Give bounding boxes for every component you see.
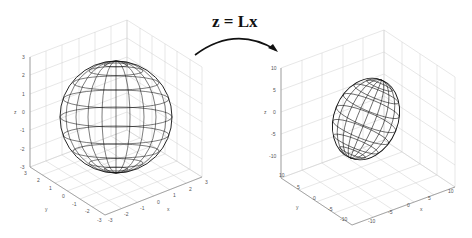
svg-text:2: 2 (37, 177, 40, 183)
arrow-head-icon (268, 44, 278, 52)
svg-text:0: 0 (157, 199, 160, 205)
equation-label: z = Lx (212, 12, 258, 32)
svg-text:-2: -2 (85, 208, 90, 214)
svg-text:0: 0 (273, 109, 276, 115)
svg-text:0: 0 (407, 202, 410, 208)
svg-text:-10: -10 (269, 153, 276, 159)
svg-text:z: z (14, 109, 17, 115)
svg-text:y: y (296, 204, 299, 210)
svg-text:-3: -3 (97, 217, 102, 223)
svg-text:y: y (45, 206, 48, 212)
svg-text:-1: -1 (72, 201, 77, 207)
svg-text:2: 2 (189, 186, 192, 192)
svg-text:-5: -5 (328, 206, 333, 212)
svg-text:3: 3 (22, 54, 25, 60)
svg-text:0: 0 (313, 195, 316, 201)
svg-text:-2: -2 (124, 211, 129, 217)
svg-text:5: 5 (273, 87, 276, 93)
svg-text:-10: -10 (368, 218, 375, 224)
svg-text:-1: -1 (140, 205, 145, 211)
svg-text:1: 1 (22, 91, 25, 97)
left-y-ticks: 3 2 1 0 -1 -2 -3 y (24, 170, 102, 223)
svg-text:10: 10 (448, 188, 454, 194)
svg-text:x: x (420, 206, 423, 212)
right-x-ticks: -10 -5 0 5 10 x (368, 188, 454, 224)
svg-text:1: 1 (173, 192, 176, 198)
svg-text:-5: -5 (388, 209, 393, 215)
transform-arrow (195, 39, 276, 55)
svg-text:-5: -5 (271, 131, 276, 137)
figure-canvas: 3 2 1 0 -1 -2 -3 z 3 2 1 0 -1 -2 -3 y -3… (0, 0, 472, 238)
svg-text:x: x (167, 206, 170, 212)
svg-text:10: 10 (271, 65, 277, 71)
left-x-ticks: -3 -2 -1 0 1 2 3 x (108, 179, 208, 223)
right-y-ticks: 10 5 0 -5 -10 y (279, 172, 347, 222)
svg-text:0: 0 (62, 193, 65, 199)
left-z-ticks: 3 2 1 0 -1 -2 -3 z (14, 54, 25, 170)
svg-text:2: 2 (22, 72, 25, 78)
svg-text:5: 5 (297, 184, 300, 190)
svg-text:3: 3 (24, 170, 27, 176)
left-plot: 3 2 1 0 -1 -2 -3 z 3 2 1 0 -1 -2 -3 y -3… (14, 20, 208, 223)
svg-text:5: 5 (428, 195, 431, 201)
svg-text:-3: -3 (108, 217, 113, 223)
right-z-ticks: 10 5 0 -5 -10 z (264, 65, 277, 159)
svg-text:0: 0 (22, 109, 25, 115)
svg-text:-2: -2 (20, 146, 25, 152)
svg-text:1: 1 (49, 185, 52, 191)
svg-text:10: 10 (279, 172, 285, 178)
svg-text:-1: -1 (20, 127, 25, 133)
svg-text:3: 3 (205, 179, 208, 185)
svg-text:-10: -10 (340, 216, 347, 222)
sphere-wireframe (60, 61, 172, 173)
right-plot: 10 5 0 -5 -10 z 10 5 0 -5 -10 y -10 -5 0… (264, 30, 455, 225)
svg-text:z: z (264, 109, 267, 115)
